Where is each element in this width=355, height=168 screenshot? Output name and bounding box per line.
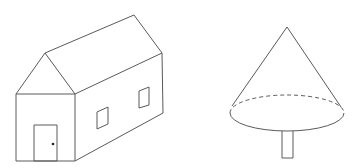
tree-base-back-edge [230,95,344,113]
house-window-1 [97,107,108,129]
house-side-base [75,113,163,161]
house-front-gable [16,53,75,94]
tree-base-front-edge [230,113,344,131]
house-roof-ridge [45,15,134,53]
tree-cone-sides [232,27,341,107]
tree-trunk [282,131,293,158]
drawing-canvas [0,0,355,168]
tree-figure [230,27,344,158]
house-figure [16,15,163,161]
house-back-corner [162,53,163,113]
house-window-2 [139,87,149,108]
door-knob [52,143,55,146]
house-front-wall [16,94,75,161]
house-roof-back-edge [134,15,162,53]
